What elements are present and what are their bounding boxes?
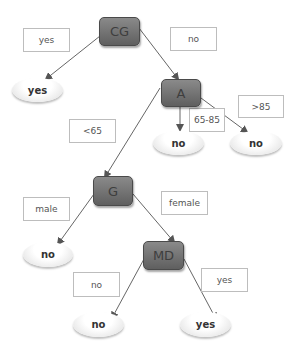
edge-label-g-female: female <box>161 191 208 215</box>
node-a: A <box>161 79 201 107</box>
tree-edges <box>0 0 291 364</box>
edge-label-md-no: no <box>73 272 120 297</box>
leaf-md-no: no <box>73 312 124 337</box>
edge-label-cg-yes: yes <box>23 28 70 52</box>
edge-label-cg-no: no <box>170 27 217 51</box>
edge-label-a-low: <65 <box>69 119 116 143</box>
leaf-g-male-no: no <box>23 242 73 267</box>
edge-label-md-yes: yes <box>201 268 248 292</box>
leaf-a-high-no: no <box>230 131 282 155</box>
leaf-a-mid-no: no <box>153 131 204 155</box>
node-g: G <box>93 176 133 206</box>
edge-label-a-high: >85 <box>238 95 284 118</box>
edge-label-g-male: male <box>23 197 70 221</box>
leaf-cg-yes: yes <box>12 78 63 102</box>
leaf-md-yes: yes <box>180 312 231 337</box>
node-md: MD <box>143 241 184 270</box>
edge-label-a-mid: 65-85 <box>189 108 225 132</box>
node-cg: CG <box>99 17 140 46</box>
